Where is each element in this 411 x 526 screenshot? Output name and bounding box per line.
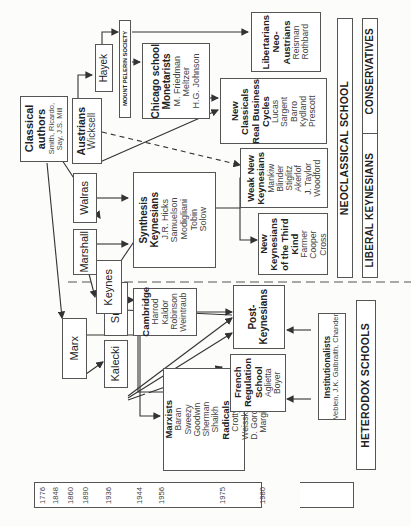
band-divider [363, 133, 377, 134]
node-mount-pelerin-society: MOUNT PELERIN SOCIETY [119, 20, 131, 118]
node-post-keynesians: Post-Keynesians [233, 285, 285, 349]
node-cambridge: CambridgeHarrodKaldorRobinsonWeintraub [133, 288, 197, 336]
year-label: 1944 [135, 487, 144, 504]
year-label: 1848 [51, 487, 60, 504]
year-label: 1860 [66, 487, 75, 504]
year-label: 1956 [157, 487, 166, 504]
node-austrians: AustriansWicksell [72, 98, 102, 164]
node-walras: Walras [73, 173, 97, 223]
year-label: 1980 [258, 487, 267, 504]
node-weak-new-keynesians: Weak NewKeynesiansMankiwBlinderStiglitzA… [240, 148, 328, 208]
node-libertarians-neo-austrians: LibertariansNeo-AustriansReismanRothbard [251, 12, 321, 72]
band-keynesians-conservatives: CONSERVATIVES LIBERAL KEYNESIANS [362, 18, 378, 278]
node-new-classicals: NewClassicalsReal BusinessCyclesLucasSar… [220, 78, 327, 144]
year-label: 1776 [38, 487, 47, 504]
band-liberal-keynesians: LIBERAL KEYNESIANS [365, 153, 376, 268]
band-heterodox-schools: HETERODOX SCHOOLS [356, 300, 376, 470]
node-keynes: Keynes [96, 260, 122, 314]
band-neoclassical-school: NEOCLASSICAL SCHOOL [337, 18, 353, 278]
node-synthesis-keynesians: SynthesisKeynesiansJ.R. HicksSamuelsonMo… [133, 172, 216, 268]
marxists-group: MarxistsBaranSweezyGoodwinShermanShaikh [164, 400, 221, 439]
diagram-canvas: 1776 1848 1860 1890 1936 1944 1956 1975 … [0, 0, 411, 526]
timeline-axis-end [300, 482, 354, 508]
node-chicago-school-monetarists: Chicago schoolMonetaristsM. FriedmanMelt… [142, 43, 210, 119]
node-kalecki: Kalecki [104, 340, 128, 388]
node-marx: Marx [62, 318, 87, 379]
year-label: 1975 [218, 487, 227, 504]
node-hayek: Hayek [95, 44, 113, 92]
year-label: 1936 [104, 487, 113, 504]
band-conservatives: CONSERVATIVES [365, 28, 376, 115]
node-french-regulation-school: FrenchRegulationSchoolAgliettaBoyer [230, 354, 286, 412]
node-classical-authors: ClassicalauthorsSmith, Ricardo,Say, J.S.… [20, 96, 68, 162]
year-label: 1890 [81, 487, 90, 504]
node-institutionalists: InstitutionalistsVeblen, J.K. Galbraith,… [318, 313, 346, 420]
node-new-keynesians-third-kind: NewKeynesiansof the ThirdKindFarmerCoope… [258, 213, 328, 275]
node-marshall: Marshall [73, 229, 97, 275]
